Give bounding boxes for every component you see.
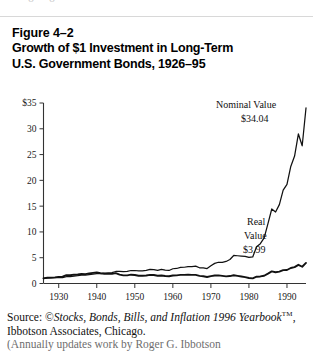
source-clipped-text: (Annually updates work by Roger G. Ibbot… — [7, 340, 313, 352]
x-axis-ticks: 1930194019501960197019801990 — [49, 284, 297, 302]
source-note: Source: ©Stocks, Bonds, Bills, and Infla… — [7, 307, 313, 339]
source-italic-title-part1: Stocks, Bonds, Bills, and Inflation 1996 — [54, 311, 236, 323]
source-italic-title-part2: Yearbook — [239, 311, 282, 323]
y-tick-label: 10 — [27, 227, 37, 237]
figure-title-line-1: Growth of $1 Investment in Long-Term — [12, 41, 302, 57]
real-value-label-line2: Value — [244, 230, 267, 241]
y-tick-label: 25 — [27, 150, 37, 160]
y-tick-label: 15 — [27, 202, 37, 212]
top-remnant-text: o o — [28, 0, 61, 6]
y-tick-label: 30 — [27, 124, 37, 134]
chart-container: 051015202530$35 193019401950196019701980… — [0, 92, 313, 304]
nominal-value-line — [44, 108, 307, 278]
real-value-amount: $3.99 — [243, 244, 266, 255]
trademark-symbol: TM — [282, 310, 293, 318]
y-axis-ticks: 051015202530$35 — [22, 98, 43, 289]
figure-number: Figure 4–2 — [12, 26, 302, 41]
y-tick-label: 0 — [32, 279, 37, 289]
real-value-line — [44, 263, 307, 278]
y-tick-label: $35 — [22, 98, 37, 108]
source-prefix: Source: © — [7, 311, 54, 323]
real-value-label-line1: Real — [247, 216, 266, 227]
header-divider-rule — [0, 16, 313, 17]
x-tick-label: 1950 — [125, 292, 144, 302]
figure-title-line-2: U.S. Government Bonds, 1926–95 — [12, 57, 302, 73]
x-tick-label: 1980 — [239, 292, 258, 302]
figure-title-block: Figure 4–2 Growth of $1 Investment in Lo… — [12, 26, 302, 72]
y-tick-label: 5 — [32, 253, 37, 263]
x-tick-label: 1930 — [49, 292, 68, 302]
source-note-clipped-line: (Annually updates work by Roger G. Ibbot… — [7, 340, 313, 352]
x-tick-label: 1990 — [277, 292, 296, 302]
nominal-value-amount: $34.04 — [241, 113, 269, 124]
y-tick-label: 20 — [27, 176, 37, 186]
x-tick-label: 1940 — [87, 292, 106, 302]
x-tick-label: 1970 — [201, 292, 220, 302]
x-tick-label: 1960 — [163, 292, 182, 302]
bond-growth-line-chart: 051015202530$35 193019401950196019701980… — [0, 92, 313, 304]
nominal-value-label: Nominal Value — [216, 99, 277, 110]
page-top-remnant: o o — [0, 0, 313, 9]
